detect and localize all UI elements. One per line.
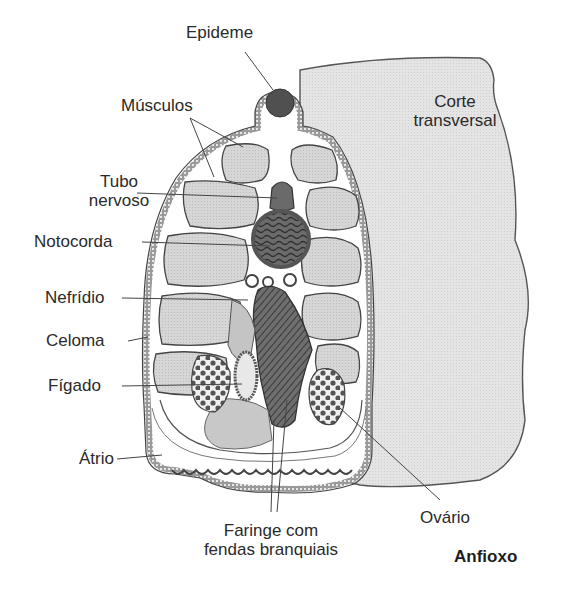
nerve-tube bbox=[270, 182, 294, 211]
label-nerve-tube: Tubo nervoso bbox=[84, 172, 154, 210]
label-coelom: Celoma bbox=[46, 331, 105, 350]
label-ovary: Ovário bbox=[420, 508, 470, 527]
label-epidermis: Epideme bbox=[186, 23, 253, 42]
label-cross-section-line1: Corte bbox=[400, 92, 510, 111]
liver bbox=[235, 352, 257, 400]
label-nerve-tube-line2: nervoso bbox=[84, 191, 154, 210]
label-cross-section-line2: transversal bbox=[400, 111, 510, 130]
label-nerve-tube-line1: Tubo bbox=[84, 172, 154, 191]
ovary bbox=[309, 369, 345, 425]
label-pharynx-line2: fendas branquiais bbox=[166, 540, 376, 559]
label-pharynx: Faringe com fendas branquiais bbox=[166, 521, 376, 559]
notochord bbox=[253, 211, 309, 267]
label-liver: Fígado bbox=[48, 376, 101, 395]
label-cross-section: Corte transversal bbox=[400, 92, 510, 130]
dorsal-fin-ray bbox=[266, 89, 294, 117]
label-atrium: Átrio bbox=[79, 449, 114, 468]
label-notochord: Notocorda bbox=[34, 232, 112, 251]
diagram-title: Anfioxo bbox=[454, 547, 517, 567]
label-muscles: Músculos bbox=[121, 96, 193, 115]
label-nephridium: Nefrídio bbox=[45, 288, 105, 307]
label-pharynx-line1: Faringe com bbox=[166, 521, 376, 540]
